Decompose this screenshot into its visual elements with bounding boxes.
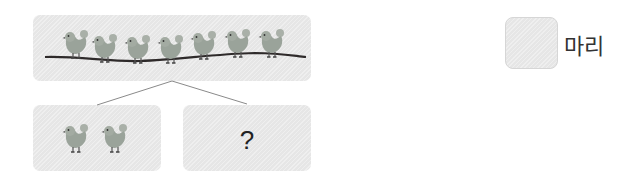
chick-icon [63,124,89,152]
chick-icon [102,124,128,152]
chick-icon [63,30,89,58]
chick-icon [125,35,151,63]
chick-icon [92,34,118,62]
connector-lines [97,81,247,105]
diagram-graphics [0,0,628,184]
